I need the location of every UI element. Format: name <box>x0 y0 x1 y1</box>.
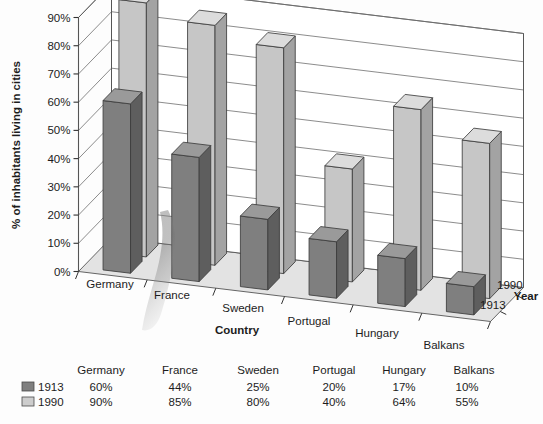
y-axis-tick-label: 60% <box>47 96 70 108</box>
table-cell-value: 44% <box>168 381 191 393</box>
y-axis-title: % of inhabitants living in cities <box>10 61 22 229</box>
x-axis-category-label: Portugal <box>288 315 331 327</box>
y-axis-tick-label: 70% <box>47 68 70 80</box>
y-axis-tick-label: 50% <box>47 124 70 136</box>
bar-side-face <box>421 98 433 291</box>
bar-side-face <box>284 36 296 274</box>
table-cell-value: 60% <box>89 381 112 393</box>
y-axis-tick-label: 20% <box>47 209 70 221</box>
x-axis-title: Country <box>215 324 260 336</box>
y-axis: 0%10%20%30%40%50%60%70%80%90%% of inhabi… <box>10 12 79 278</box>
table-cell-value: 17% <box>392 381 415 393</box>
table-cell-value: 64% <box>392 396 415 408</box>
bar-front-face <box>240 216 267 290</box>
z-axis-category-label-1913: 1913 <box>480 299 506 311</box>
x-axis-category-label: Hungary <box>355 327 399 339</box>
bar-side-face <box>490 131 502 298</box>
table-column-header: France <box>162 364 198 376</box>
x-axis-tick <box>76 272 79 280</box>
z-axis-title: Year <box>514 290 539 302</box>
legend-series-label: 1990 <box>38 396 64 408</box>
gridline-side <box>79 40 112 74</box>
bar-portugal-1913 <box>309 227 348 299</box>
table-cell-value: 55% <box>455 396 478 408</box>
legend-data-table: GermanyFranceSwedenPortugalHungaryBalkan… <box>22 364 495 408</box>
chart-figure: 0%10%20%30%40%50%60%70%80%90%% of inhabi… <box>0 0 543 424</box>
table-cell-value: 20% <box>322 381 345 393</box>
table-cell-value: 80% <box>246 396 269 408</box>
y-axis-tick-label: 0% <box>54 266 71 278</box>
bar-side-face <box>352 157 364 282</box>
x-axis-category-label: Sweden <box>222 302 264 314</box>
x-axis-category-label: Germany <box>86 278 134 290</box>
bar-front-face <box>378 255 405 306</box>
y-axis-tick-label: 40% <box>47 153 70 165</box>
bar-front-face <box>172 154 199 282</box>
bar-hungary-1913 <box>378 243 417 306</box>
bar-side-face <box>215 13 227 265</box>
x-axis-tick <box>488 322 491 330</box>
table-cell-value: 25% <box>246 381 269 393</box>
y-axis-tick-label: 10% <box>47 237 70 249</box>
bar-front-face <box>446 283 473 315</box>
bar-front-face <box>309 238 336 298</box>
x-axis-category-label: Balkans <box>424 339 465 351</box>
table-column-header: Balkans <box>454 364 495 376</box>
table-cell-value: 10% <box>455 381 478 393</box>
x-axis-category-label: France <box>154 289 190 301</box>
x-axis-tick <box>213 288 216 296</box>
x-axis-tick <box>419 313 422 321</box>
bar-side-face <box>146 0 158 257</box>
table-cell-value: 40% <box>322 396 345 408</box>
legend-swatch-1913 <box>22 382 34 391</box>
table-cell-value: 85% <box>168 396 191 408</box>
y-axis-tick-label: 30% <box>47 181 70 193</box>
bar-side-face <box>268 207 280 289</box>
bar-front-face <box>103 101 130 274</box>
bar-germany-1913 <box>103 89 142 274</box>
bar-side-face <box>199 146 211 282</box>
bar-side-face <box>131 92 143 273</box>
table-column-header: Sweden <box>237 364 279 376</box>
bar-sweden-1913 <box>240 204 279 290</box>
x-axis-tick <box>144 280 147 288</box>
table-column-header: Portugal <box>313 364 356 376</box>
gridline-side <box>79 12 112 46</box>
bar-chart-3d: 0%10%20%30%40%50%60%70%80%90%% of inhabi… <box>0 0 543 424</box>
z-axis-tick <box>500 311 506 314</box>
y-axis-tick-label: 80% <box>47 40 70 52</box>
wall-top-edge <box>79 0 112 18</box>
x-axis-tick <box>350 305 353 313</box>
table-column-header: Hungary <box>382 364 426 376</box>
legend-swatch-1990 <box>22 397 34 406</box>
bar-france-1913 <box>172 142 211 281</box>
table-cell-value: 90% <box>89 396 112 408</box>
x-axis-tick <box>282 297 285 305</box>
plot-area <box>79 0 524 330</box>
y-axis-tick-label: 90% <box>47 12 70 24</box>
table-column-header: Germany <box>77 364 125 376</box>
gridline-side <box>79 0 112 18</box>
legend-series-label: 1913 <box>38 381 64 393</box>
